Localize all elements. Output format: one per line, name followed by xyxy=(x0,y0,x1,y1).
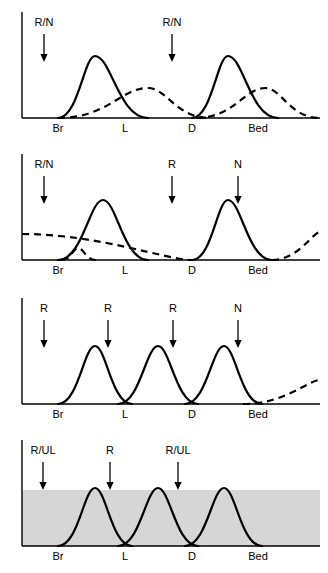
arrow-label: R xyxy=(169,302,177,314)
chart-panel-1: R/NR/NBrLDBed xyxy=(0,0,328,143)
arrow-label: R/UL xyxy=(165,444,190,456)
shaded-band xyxy=(22,490,320,546)
panel-1-svg: R/NR/NBrLDBed xyxy=(0,0,328,143)
x-axis-tick-label: L xyxy=(122,408,128,420)
down-arrow-icon xyxy=(104,340,111,348)
figure-container: R/NR/NBrLDBed R/NRNBrLDBed RRRNBrLDBed R… xyxy=(0,0,328,573)
panel-4-svg: R/ULRR/ULBrLDBed xyxy=(0,428,328,571)
x-axis-tick-label: Bed xyxy=(248,408,268,420)
x-axis-tick-label: L xyxy=(122,122,128,134)
down-arrow-icon xyxy=(168,54,175,62)
x-axis-tick-label: L xyxy=(122,550,128,562)
down-arrow-icon xyxy=(234,196,241,204)
arrow-label: R/N xyxy=(35,158,54,170)
down-arrow-icon xyxy=(174,482,181,490)
x-axis-tick-label: Bed xyxy=(248,550,268,562)
arrow-label: R/N xyxy=(163,16,182,28)
arrow-label: R/N xyxy=(35,16,54,28)
panel-2-svg: R/NRNBrLDBed xyxy=(0,142,328,285)
arrow-label: R xyxy=(40,302,48,314)
solid-curve xyxy=(118,346,198,404)
x-axis-tick-label: Bed xyxy=(248,122,268,134)
down-arrow-icon xyxy=(40,196,47,204)
x-axis-tick-label: Br xyxy=(53,550,64,562)
solid-curve xyxy=(58,200,148,260)
down-arrow-icon xyxy=(40,340,47,348)
x-axis-tick-label: D xyxy=(188,550,196,562)
arrow-label: R xyxy=(104,302,112,314)
x-axis-tick-label: Bed xyxy=(248,264,268,276)
arrow-label: N xyxy=(234,158,242,170)
chart-panel-4: R/ULRR/ULBrLDBed xyxy=(0,428,328,571)
arrow-label: R xyxy=(106,444,114,456)
chart-panel-3: RRRNBrLDBed xyxy=(0,286,328,429)
down-arrow-icon xyxy=(39,482,46,490)
solid-curve xyxy=(185,346,262,404)
solid-curve xyxy=(58,346,132,404)
panel-3-svg: RRRNBrLDBed xyxy=(0,286,328,429)
x-axis-tick-label: D xyxy=(188,122,196,134)
dashed-curve xyxy=(272,232,320,260)
x-axis-tick-label: Br xyxy=(53,122,64,134)
x-axis-tick-label: D xyxy=(188,264,196,276)
down-arrow-icon xyxy=(169,340,176,348)
x-axis-tick-label: D xyxy=(188,408,196,420)
arrow-label: N xyxy=(234,302,242,314)
solid-curve xyxy=(192,200,272,260)
arrow-label: R/UL xyxy=(30,444,55,456)
down-arrow-icon xyxy=(106,482,113,490)
dashed-curve xyxy=(22,234,192,260)
chart-panel-2: R/NRNBrLDBed xyxy=(0,142,328,285)
x-axis-tick-label: Br xyxy=(53,408,64,420)
x-axis-tick-label: L xyxy=(122,264,128,276)
arrow-label: R xyxy=(168,158,176,170)
down-arrow-icon xyxy=(234,340,241,348)
down-arrow-icon xyxy=(40,54,47,62)
solid-curve xyxy=(58,56,148,118)
x-axis-tick-label: Br xyxy=(53,264,64,276)
down-arrow-icon xyxy=(168,196,175,204)
